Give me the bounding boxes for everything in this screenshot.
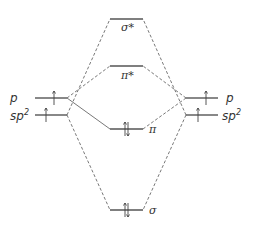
pi-label: π	[148, 123, 157, 136]
sigma-star-label: σ*	[121, 21, 135, 34]
corr-left-sp2-sigma	[67, 115, 110, 210]
corr-left-p-pi	[67, 98, 110, 129]
sigma-label: σ	[149, 204, 157, 217]
mo-diagram: σ* π* π σ p sp2 p sp2	[0, 0, 254, 233]
right-sp2-label: sp2	[222, 108, 241, 123]
left-sp2-label: sp2	[10, 108, 29, 123]
corr-left-p-pistar	[67, 66, 110, 98]
corr-right-sp2-sigmastar	[143, 19, 186, 115]
pi-star-label: π*	[120, 69, 134, 82]
corr-right-p-pistar	[143, 66, 186, 98]
right-p-label: p	[225, 91, 234, 105]
corr-left-sp2-sigmastar	[67, 19, 110, 115]
left-p-label: p	[9, 91, 18, 105]
